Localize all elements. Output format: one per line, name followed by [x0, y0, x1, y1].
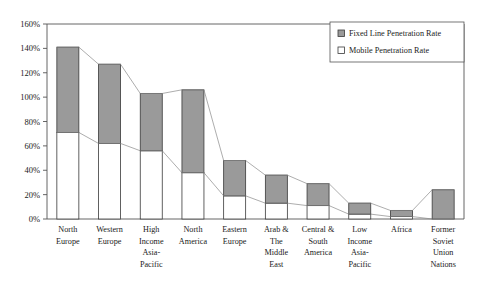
bar-group [224, 161, 246, 220]
bar-segment-mobile [182, 173, 204, 219]
bar-segment-fixed-line [224, 161, 246, 196]
y-axis-tick-label: 140% [20, 43, 40, 53]
bar-group [57, 47, 79, 219]
x-axis-category-label-line: Middle [265, 248, 289, 257]
y-axis-tick-label: 40% [24, 165, 40, 175]
legend-box [330, 22, 464, 62]
bar-segment-fixed-line [57, 47, 79, 132]
bar-segment-mobile [349, 214, 371, 219]
x-axis-category-label-line: Former [431, 225, 455, 234]
bar-segment-mobile [224, 196, 246, 219]
x-axis-category-label: LowIncomeAsia-Pacific [347, 225, 372, 269]
y-axis-tick-label: 100% [20, 92, 40, 102]
x-axis-category-label-line: North [58, 225, 77, 234]
y-axis-tick-label: 120% [20, 68, 40, 78]
legend-swatch-fixed-line [338, 30, 345, 37]
x-axis-category-label-line: America [304, 248, 333, 257]
legend-item-label: Mobile Penetration Rate [349, 46, 429, 55]
x-axis-category-label-line: Europe [98, 237, 122, 246]
x-axis-category-label-line: Low [352, 225, 367, 234]
x-axis-category-label-line: Union [433, 248, 453, 257]
legend-swatch-mobile [338, 47, 345, 54]
x-axis-category-label-line: The [270, 237, 283, 246]
x-axis-category-label-line: Nations [430, 260, 455, 269]
x-axis-category-label-line: Europe [56, 237, 80, 246]
bar-group [140, 93, 162, 219]
x-axis-category-label-line: Western [96, 225, 123, 234]
x-axis-category-label-line: South [308, 237, 327, 246]
bar-segment-mobile [99, 143, 121, 219]
x-axis-category-label: HighIncomeAsia-Pacific [139, 225, 164, 269]
y-axis-tick-label: 160% [20, 19, 40, 29]
x-axis-category-label-line: East [269, 260, 284, 269]
bar-segment-fixed-line [349, 203, 371, 214]
bar-group [432, 190, 454, 219]
bar-segment-fixed-line [432, 190, 454, 219]
x-axis-category-label-line: Pacific [348, 260, 371, 269]
x-axis-category-label-line: America [179, 237, 208, 246]
x-axis-category-label: Africa [391, 225, 412, 234]
chart-container: 0%20%40%60%80%100%120%140%160%NorthEurop… [0, 0, 486, 282]
y-axis-tick-label: 80% [24, 117, 40, 127]
bar-segment-mobile [307, 206, 329, 219]
bar-group [349, 203, 371, 219]
bar-group [99, 64, 121, 219]
y-axis-tick-label: 60% [24, 141, 40, 151]
x-axis-category-label-line: Eastern [222, 225, 247, 234]
bar-segment-mobile [57, 132, 79, 219]
x-axis-category-label-line: Arab & [264, 225, 289, 234]
x-axis-category-label-line: Central & [302, 225, 335, 234]
x-axis-category-label: NorthAmerica [179, 225, 208, 246]
x-axis-category-label-line: Asia- [142, 248, 160, 257]
y-axis-tick-label: 0% [29, 214, 40, 224]
legend: Fixed Line Penetration RateMobile Penetr… [330, 22, 464, 62]
x-axis-category-label: FormerSovietUnionNations [430, 225, 455, 269]
bar-group [265, 175, 287, 219]
bar-group [307, 184, 329, 219]
x-axis-category-label-line: High [143, 225, 159, 234]
x-axis-category-label-line: Pacific [140, 260, 163, 269]
bar-segment-fixed-line [99, 64, 121, 143]
bar-segment-mobile [140, 151, 162, 219]
x-axis-category-label: EasternEurope [222, 225, 247, 246]
x-axis-category-label-line: Soviet [433, 237, 455, 246]
x-axis-category-label: WesternEurope [96, 225, 123, 246]
bar-segment-fixed-line [182, 90, 204, 173]
x-axis-category-label: NorthEurope [56, 225, 80, 246]
bar-segment-mobile [265, 203, 287, 219]
x-axis-category-label: Arab &TheMiddleEast [264, 225, 289, 269]
bar-group [182, 90, 204, 219]
bar-segment-fixed-line [307, 184, 329, 206]
bar-group [390, 210, 412, 219]
x-axis-category-label-line: North [183, 225, 202, 234]
legend-item-label: Fixed Line Penetration Rate [349, 29, 441, 38]
x-axis-category-label-line: Income [347, 237, 372, 246]
x-axis-category-label-line: Europe [223, 237, 247, 246]
x-axis-category-label-line: Income [139, 237, 164, 246]
x-axis-category-label: Central &SouthAmerica [302, 225, 335, 257]
bar-segment-fixed-line [265, 175, 287, 203]
x-axis-category-label-line: Africa [391, 225, 412, 234]
x-axis-category-label-line: Asia- [351, 248, 369, 257]
penetration-rate-stacked-bar-chart: 0%20%40%60%80%100%120%140%160%NorthEurop… [0, 0, 486, 282]
y-axis-tick-label: 20% [24, 190, 40, 200]
bar-segment-fixed-line [140, 93, 162, 150]
bar-segment-fixed-line [390, 210, 412, 216]
